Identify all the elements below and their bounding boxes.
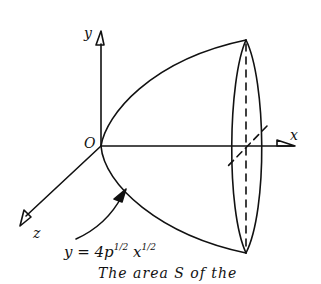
parabola-upper-curve — [101, 40, 246, 146]
paraboloid-diagram — [0, 0, 321, 284]
equation-lhs: y = 4p — [64, 243, 114, 261]
z-axis — [26, 146, 101, 216]
equation-exponent-1: 1/2 — [114, 242, 128, 252]
leader-arrow-line — [76, 196, 122, 239]
z-axis-label: z — [33, 226, 40, 240]
curve-equation: y = 4p1/2 x1/2 — [64, 243, 156, 260]
caption-text: The area S of the — [98, 266, 237, 280]
y-axis-arrowhead-icon — [96, 31, 104, 45]
equation-exponent-2: 1/2 — [141, 242, 155, 252]
origin-label: O — [84, 136, 95, 150]
x-axis-label: x — [290, 128, 298, 142]
leader-arrowhead-icon — [114, 189, 126, 202]
y-axis-label: y — [84, 26, 92, 40]
